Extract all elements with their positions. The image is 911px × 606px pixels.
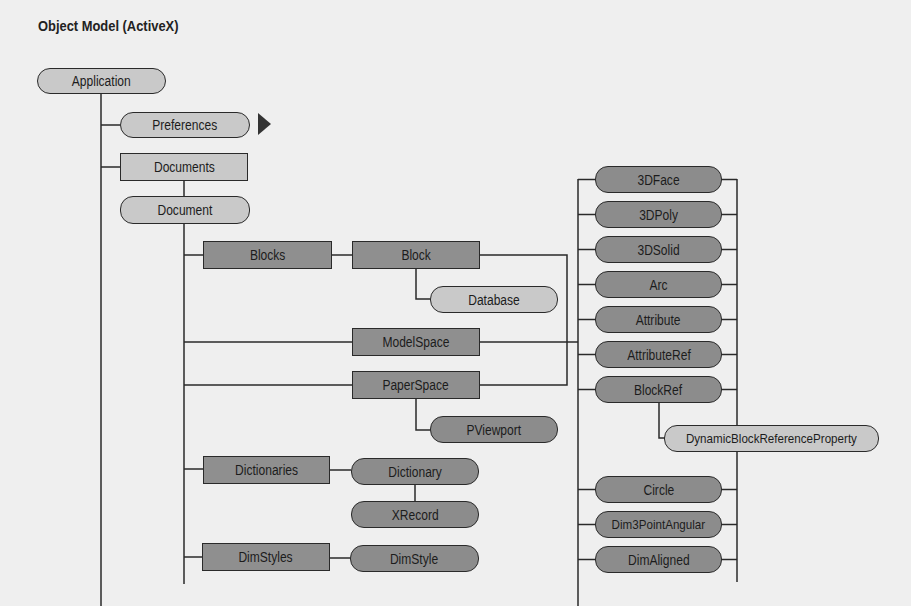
node-block[interactable]: Block <box>352 241 480 269</box>
node-pviewport[interactable]: PViewport <box>430 416 558 443</box>
node-entity-3dface[interactable]: 3DFace <box>595 166 722 193</box>
block-paperspace-bus <box>480 255 567 385</box>
node-database-label: Database <box>468 292 520 308</box>
node-entity-attributeref[interactable]: AttributeRef <box>595 341 722 368</box>
paperspace-pviewport-connector <box>416 399 430 430</box>
node-entity-circle[interactable]: Circle <box>595 476 722 503</box>
node-documents-label: Documents <box>154 159 215 175</box>
node-preferences[interactable]: Preferences <box>120 112 250 138</box>
node-dynamic-block-reference-property-label: DynamicBlockReferenceProperty <box>686 431 857 446</box>
node-entity-attribute[interactable]: Attribute <box>595 306 722 333</box>
node-dictionaries-label: Dictionaries <box>235 462 298 478</box>
node-entity-label: DimAligned <box>628 552 690 568</box>
node-dynamic-block-reference-property[interactable]: DynamicBlockReferenceProperty <box>664 425 879 452</box>
node-dictionaries[interactable]: Dictionaries <box>203 456 330 484</box>
node-entity-arc[interactable]: Arc <box>595 271 722 298</box>
node-entity-label: Attribute <box>636 312 681 328</box>
node-entity-dimaligned[interactable]: DimAligned <box>595 546 722 573</box>
node-block-label: Block <box>401 247 430 263</box>
node-entity-label: AttributeRef <box>627 347 691 363</box>
node-entity-3dsolid[interactable]: 3DSolid <box>595 236 722 263</box>
node-entity-label: Arc <box>649 277 667 293</box>
node-dictionary-label: Dictionary <box>388 464 442 480</box>
node-document-label: Document <box>158 202 213 218</box>
node-entity-label: 3DPoly <box>639 207 678 223</box>
right-triangle-icon[interactable] <box>258 113 271 135</box>
node-application[interactable]: Application <box>37 68 166 94</box>
node-entity-3dpoly[interactable]: 3DPoly <box>595 201 722 228</box>
node-paperspace[interactable]: PaperSpace <box>352 371 480 399</box>
node-blocks-label: Blocks <box>250 247 285 263</box>
node-entity-label: 3DSolid <box>637 242 679 258</box>
node-database[interactable]: Database <box>430 286 558 313</box>
node-document[interactable]: Document <box>120 196 250 224</box>
node-dimstyles[interactable]: DimStyles <box>202 543 330 571</box>
node-modelspace[interactable]: ModelSpace <box>352 328 480 356</box>
node-entity-label: Circle <box>643 482 674 498</box>
node-paperspace-label: PaperSpace <box>383 377 449 393</box>
node-modelspace-label: ModelSpace <box>383 334 450 350</box>
node-pviewport-label: PViewport <box>467 422 522 438</box>
node-dimstyle-label: DimStyle <box>390 551 438 567</box>
node-documents[interactable]: Documents <box>120 153 248 181</box>
node-entity-label: 3DFace <box>637 172 679 188</box>
node-dimstyle[interactable]: DimStyle <box>350 545 479 572</box>
block-database-connector <box>416 269 430 299</box>
node-blocks[interactable]: Blocks <box>203 241 332 269</box>
node-preferences-label: Preferences <box>153 117 218 133</box>
node-application-label: Application <box>72 73 131 89</box>
node-entity-blockref[interactable]: BlockRef <box>595 376 722 403</box>
node-dimstyles-label: DimStyles <box>239 549 293 565</box>
node-xrecord-label: XRecord <box>392 507 439 523</box>
node-entity-label: BlockRef <box>634 382 682 398</box>
node-xrecord[interactable]: XRecord <box>351 501 479 528</box>
node-entity-dim3pointangular[interactable]: Dim3PointAngular <box>595 511 722 538</box>
node-dictionary[interactable]: Dictionary <box>351 458 479 485</box>
node-entity-label: Dim3PointAngular <box>612 517 706 532</box>
